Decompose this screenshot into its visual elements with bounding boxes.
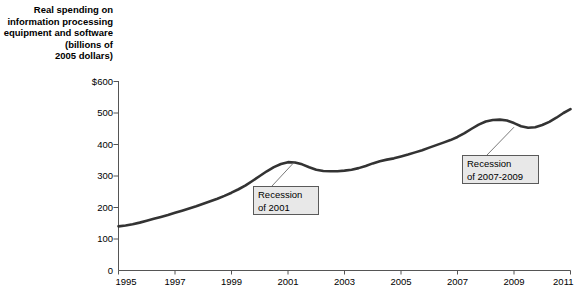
x-tick-label-2011: 2011 xyxy=(534,277,574,287)
annotation-1-line-1: Recession xyxy=(258,189,302,200)
annotation-recession-2007-2009: Recessionof 2007-2009 xyxy=(462,155,539,184)
y-tick-label-200: 200 xyxy=(60,203,113,213)
x-tick-label-1999: 1999 xyxy=(212,277,252,287)
y-tick-label-100: 100 xyxy=(60,234,113,244)
x-tick-label-1997: 1997 xyxy=(155,277,195,287)
x-tick-label-2001: 2001 xyxy=(268,277,308,287)
x-tick-label-2003: 2003 xyxy=(325,277,365,287)
annotation-recession-2001: Recessionof 2001 xyxy=(253,186,319,215)
y-tick-label-0: 0 xyxy=(60,266,113,276)
y-tick-label-600: $600 xyxy=(60,77,113,87)
chart-figure: Real spending on information processing … xyxy=(0,0,579,292)
x-tick-label-2009: 2009 xyxy=(494,277,534,287)
y-tick-label-500: 500 xyxy=(60,108,113,118)
annotation-1-line-2: of 2001 xyxy=(258,202,290,213)
x-tick-label-2005: 2005 xyxy=(381,277,421,287)
x-tick-label-1995: 1995 xyxy=(116,277,156,287)
y-tick-label-400: 400 xyxy=(60,140,113,150)
annotation-2-line-2: of 2007-2009 xyxy=(467,171,523,182)
y-tick-label-300: 300 xyxy=(60,171,113,181)
x-tick-label-2007: 2007 xyxy=(438,277,478,287)
annotation-2-line-1: Recession xyxy=(467,158,511,169)
